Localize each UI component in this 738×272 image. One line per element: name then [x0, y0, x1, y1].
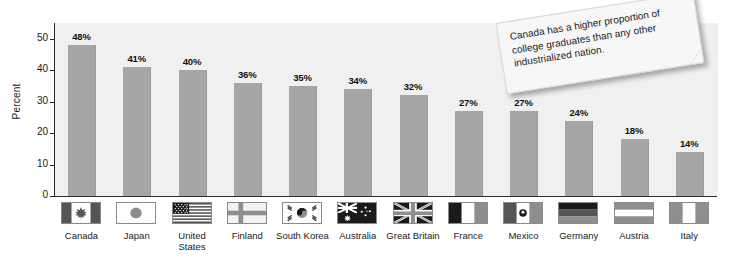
- bar[interactable]: [400, 95, 428, 196]
- bar-value-label: 41%: [109, 53, 164, 64]
- y-axis-tick-label: 20: [24, 127, 48, 137]
- y-axis-tick-label: 0: [24, 190, 48, 200]
- flag-slot: [54, 202, 109, 226]
- category-label: Great Britain: [386, 230, 441, 241]
- flag-japan-icon: [116, 202, 156, 224]
- x-axis-line: [54, 196, 717, 197]
- category-label: South Korea: [275, 230, 330, 241]
- flag-slot: [165, 202, 220, 226]
- flag-slot: [330, 202, 385, 226]
- flag-slot: [386, 202, 441, 226]
- bar[interactable]: [68, 45, 96, 196]
- category-label: France: [441, 230, 496, 241]
- category-label: Germany: [551, 230, 606, 241]
- flag-finland-icon: [227, 202, 267, 224]
- callout-note-text: Canada has a higher proportion of colleg…: [509, 2, 691, 70]
- bar-slot: 48%: [54, 23, 109, 196]
- bar-value-label: 18%: [607, 125, 662, 136]
- bar-value-label: 32%: [386, 81, 441, 92]
- bar[interactable]: [676, 152, 704, 196]
- bar-value-label: 24%: [551, 107, 606, 118]
- y-axis-tick-label: 40: [24, 64, 48, 74]
- flag-france-icon: [448, 202, 488, 224]
- bar[interactable]: [344, 89, 372, 196]
- bar-value-label: 34%: [330, 75, 385, 86]
- bar[interactable]: [621, 139, 649, 196]
- bar-slot: 36%: [220, 23, 275, 196]
- flag-austria-icon: [614, 202, 654, 224]
- flag-italy-icon: [669, 202, 709, 224]
- bar[interactable]: [289, 86, 317, 196]
- bar-value-label: 27%: [496, 97, 551, 108]
- bar-slot: 27%: [441, 23, 496, 196]
- flag-mexico-icon: [503, 202, 543, 224]
- y-axis-tick-mark: [50, 196, 55, 197]
- note-fold-corner: [688, 49, 704, 65]
- flag-row: [54, 202, 717, 228]
- flag-australia-icon: [337, 202, 377, 224]
- bar[interactable]: [123, 67, 151, 196]
- flag-canada-icon: [61, 202, 101, 224]
- category-label: Japan: [109, 230, 164, 241]
- bar-slot: 34%: [330, 23, 385, 196]
- flag-slot: [607, 202, 662, 226]
- flag-slot: [441, 202, 496, 226]
- bar-slot: 41%: [109, 23, 164, 196]
- bar-value-label: 36%: [220, 69, 275, 80]
- bar[interactable]: [565, 121, 593, 196]
- bar[interactable]: [179, 70, 207, 196]
- category-label: Canada: [54, 230, 109, 241]
- bar[interactable]: [234, 83, 262, 196]
- flag-slot: [275, 202, 330, 226]
- category-label: Mexico: [496, 230, 551, 241]
- bar[interactable]: [510, 111, 538, 196]
- bar-chart: Percent 01020304050 48%41%40%36%35%34%32…: [0, 0, 738, 272]
- bar[interactable]: [455, 111, 483, 196]
- category-label: United States: [165, 230, 220, 252]
- bar-value-label: 14%: [662, 138, 717, 149]
- flag-slot: [551, 202, 606, 226]
- bar-slot: 35%: [275, 23, 330, 196]
- category-label: Austria: [607, 230, 662, 241]
- flag-germany-icon: [558, 202, 598, 224]
- bar-value-label: 40%: [165, 56, 220, 67]
- category-label: Italy: [662, 230, 717, 241]
- flag-united-states-icon: [172, 202, 212, 224]
- y-axis-tick-label: 30: [24, 96, 48, 106]
- flag-slot: [220, 202, 275, 226]
- y-axis-tick-label: 10: [24, 159, 48, 169]
- bar-value-label: 35%: [275, 72, 330, 83]
- flag-slot: [109, 202, 164, 226]
- bar-value-label: 48%: [54, 31, 109, 42]
- category-label: Australia: [330, 230, 385, 241]
- category-label: Finland: [220, 230, 275, 241]
- y-axis-title: Percent: [11, 67, 22, 137]
- bar-slot: 32%: [386, 23, 441, 196]
- flag-slot: [496, 202, 551, 226]
- bar-value-label: 27%: [441, 97, 496, 108]
- bar-slot: 40%: [165, 23, 220, 196]
- flag-great-britain-icon: [393, 202, 433, 224]
- flag-south-korea-icon: [282, 202, 322, 224]
- category-labels: CanadaJapanUnited StatesFinlandSouth Kor…: [54, 230, 717, 260]
- y-axis-tick-label: 50: [24, 33, 48, 43]
- flag-slot: [662, 202, 717, 226]
